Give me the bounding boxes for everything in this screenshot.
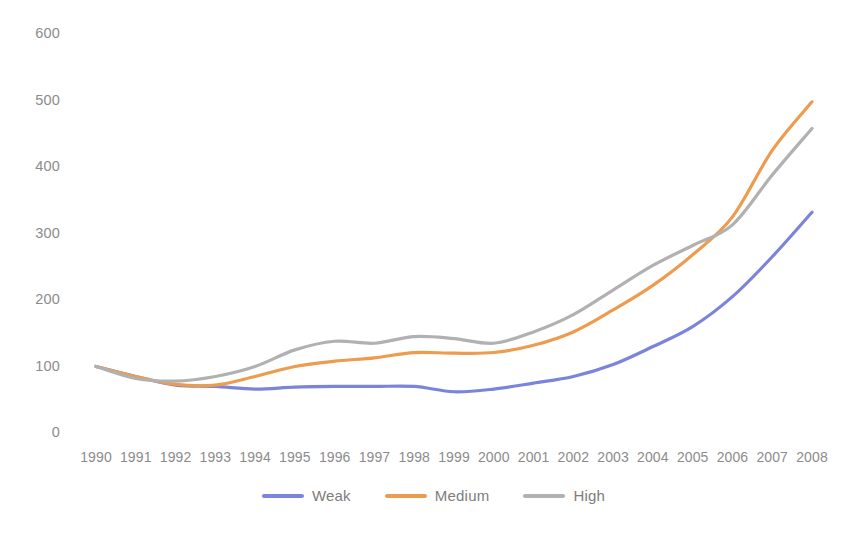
y-tick-label-100: 100 xyxy=(14,359,60,374)
x-tick-label-1991: 1991 xyxy=(116,450,156,464)
x-tick-label-1994: 1994 xyxy=(235,450,275,464)
x-tick-label-1992: 1992 xyxy=(156,450,196,464)
x-tick-label-2005: 2005 xyxy=(673,450,713,464)
y-tick-label-200: 200 xyxy=(14,292,60,307)
series-line-medium xyxy=(96,102,812,386)
legend-swatch-weak-icon xyxy=(262,494,304,498)
y-tick-label-600: 600 xyxy=(14,26,60,41)
legend-label-weak: Weak xyxy=(312,488,351,503)
line-chart: 6005004003002001000 19901991199219931994… xyxy=(0,0,867,544)
x-tick-label-1990: 1990 xyxy=(76,450,116,464)
legend-swatch-medium-icon xyxy=(385,494,427,498)
legend-label-medium: Medium xyxy=(435,488,490,503)
x-tick-label-1998: 1998 xyxy=(394,450,434,464)
x-tick-label-1997: 1997 xyxy=(354,450,394,464)
x-tick-label-2003: 2003 xyxy=(593,450,633,464)
legend-item-medium[interactable]: Medium xyxy=(385,488,490,503)
x-tick-label-2002: 2002 xyxy=(553,450,593,464)
legend-label-high: High xyxy=(573,488,605,503)
x-tick-label-1993: 1993 xyxy=(195,450,235,464)
legend-item-weak[interactable]: Weak xyxy=(262,488,351,503)
chart-legend: WeakMediumHigh xyxy=(0,488,867,503)
series-line-high xyxy=(96,128,812,381)
y-tick-label-500: 500 xyxy=(14,93,60,108)
x-tick-label-2001: 2001 xyxy=(514,450,554,464)
y-tick-label-300: 300 xyxy=(14,226,60,241)
y-tick-label-400: 400 xyxy=(14,159,60,174)
x-tick-label-2007: 2007 xyxy=(752,450,792,464)
x-tick-label-2000: 2000 xyxy=(474,450,514,464)
series-line-weak xyxy=(96,212,812,392)
x-tick-label-1996: 1996 xyxy=(315,450,355,464)
x-tick-label-2004: 2004 xyxy=(633,450,673,464)
x-tick-label-2006: 2006 xyxy=(712,450,752,464)
legend-swatch-high-icon xyxy=(523,494,565,498)
x-tick-label-1999: 1999 xyxy=(434,450,474,464)
x-tick-label-2008: 2008 xyxy=(792,450,832,464)
legend-item-high[interactable]: High xyxy=(523,488,605,503)
x-tick-label-1995: 1995 xyxy=(275,450,315,464)
y-tick-label-0: 0 xyxy=(14,425,60,440)
